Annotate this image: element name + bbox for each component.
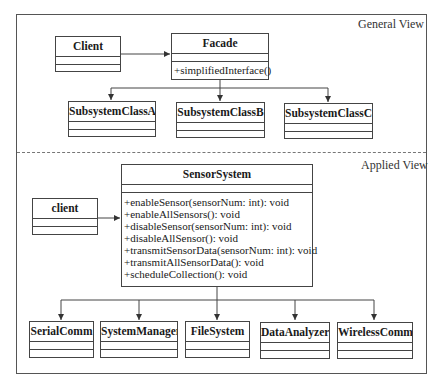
class-name: WirelessComm — [338, 323, 412, 343]
attributes-compartment — [177, 123, 264, 131]
class-name: SystemManager — [101, 322, 177, 342]
class-client-applied[interactable]: client — [32, 198, 98, 235]
method: +simplifiedInterface() — [174, 64, 268, 76]
method: +enableAllSensors(): void — [124, 208, 312, 220]
class-subsystem-b[interactable]: SubsystemClassB — [176, 102, 265, 138]
methods-compartment — [69, 130, 155, 137]
methods-compartment — [177, 131, 264, 138]
class-wireless-comm[interactable]: WirelessComm — [337, 322, 413, 359]
class-name: Facade — [172, 34, 268, 54]
attributes-compartment — [338, 343, 412, 351]
method: +disableAllSensor(): void — [124, 232, 312, 244]
methods-compartment: +enableSensor(sensorNum: int): void +ena… — [122, 193, 312, 280]
class-name: FileSystem — [186, 322, 249, 342]
attributes-compartment — [56, 57, 120, 65]
class-name: SerialComm — [30, 322, 93, 342]
class-subsystem-c[interactable]: SubsystemClassC — [284, 103, 373, 139]
class-client-general[interactable]: Client — [55, 36, 121, 72]
class-data-analyzer[interactable]: DataAnalyzer — [260, 322, 330, 359]
method: +scheduleCollection(): void — [124, 268, 312, 280]
methods-compartment — [186, 350, 249, 357]
class-name: SubsystemClassB — [177, 103, 264, 123]
class-sensor-system[interactable]: SensorSystem +enableSensor(sensorNum: in… — [121, 164, 313, 287]
attributes-compartment — [186, 342, 249, 350]
class-subsystem-a[interactable]: SubsystemClassA — [68, 101, 156, 137]
class-name: SensorSystem — [122, 165, 312, 185]
class-name: client — [33, 199, 97, 219]
class-serial-comm[interactable]: SerialComm — [29, 321, 94, 358]
attributes-compartment — [172, 54, 268, 62]
class-system-manager[interactable]: SystemManager — [100, 321, 178, 358]
class-name: SubsystemClassA — [69, 102, 155, 122]
attributes-compartment — [101, 342, 177, 350]
method: +transmitSensorData(sensorNum: int): voi… — [124, 244, 312, 256]
methods-compartment — [338, 351, 412, 358]
method: +enableSensor(sensorNum: int): void — [124, 196, 312, 208]
methods-compartment — [101, 350, 177, 357]
class-name: Client — [56, 37, 120, 57]
class-name: SubsystemClassC — [285, 104, 372, 124]
method: +disableSensor(sensorNum: int): void — [124, 220, 312, 232]
methods-compartment — [30, 350, 93, 357]
methods-compartment — [56, 65, 120, 72]
attributes-compartment — [285, 124, 372, 132]
attributes-compartment — [122, 185, 312, 193]
attributes-compartment — [69, 122, 155, 130]
attributes-compartment — [33, 219, 97, 227]
methods-compartment: +simplifiedInterface() — [172, 62, 268, 76]
method: +transmitAllSensorData(): void — [124, 256, 312, 268]
class-name: DataAnalyzer — [261, 323, 329, 343]
methods-compartment — [261, 351, 329, 358]
class-facade[interactable]: Facade +simplifiedInterface() — [171, 33, 269, 80]
methods-compartment — [285, 132, 372, 139]
attributes-compartment — [30, 342, 93, 350]
methods-compartment — [33, 227, 97, 234]
attributes-compartment — [261, 343, 329, 351]
class-file-system[interactable]: FileSystem — [185, 321, 250, 358]
